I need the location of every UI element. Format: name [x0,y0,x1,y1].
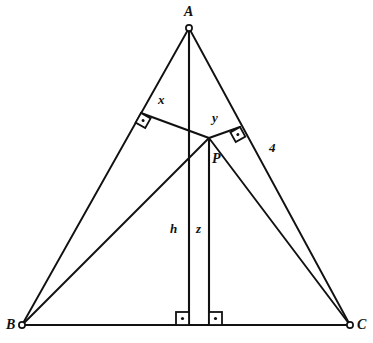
vertex-label-b: B [6,318,15,332]
segment-label-z: z [196,222,201,235]
geometry-canvas [0,0,373,343]
triangle-sides [22,28,350,325]
vertex-marker-c [347,322,353,328]
vertex-marker-a [186,25,192,31]
right-angle-altitude-base [176,312,189,325]
vertex-label-c: C [357,318,366,332]
segment-p-to-b [22,138,209,325]
side-ab [22,28,189,325]
side-ac [189,28,350,325]
perpendicular-segments [141,28,240,325]
cevian-segments [22,138,350,325]
segment-label-four: 4 [269,141,276,154]
right-angle-z-base [209,312,222,325]
segment-label-y: y [212,111,218,124]
vertex-label-a: A [184,5,193,19]
segment-label-x: x [158,93,165,106]
segment-p-to-c [209,138,350,325]
segment-label-h: h [170,222,177,235]
geometry-figure: A B C P x y 4 h z [0,0,373,343]
vertex-marker-b [19,322,25,328]
point-label-p: P [212,152,221,166]
perpendicular-p-to-ab [141,113,209,138]
vertex-markers [19,25,353,328]
right-angle-markers [136,113,246,325]
